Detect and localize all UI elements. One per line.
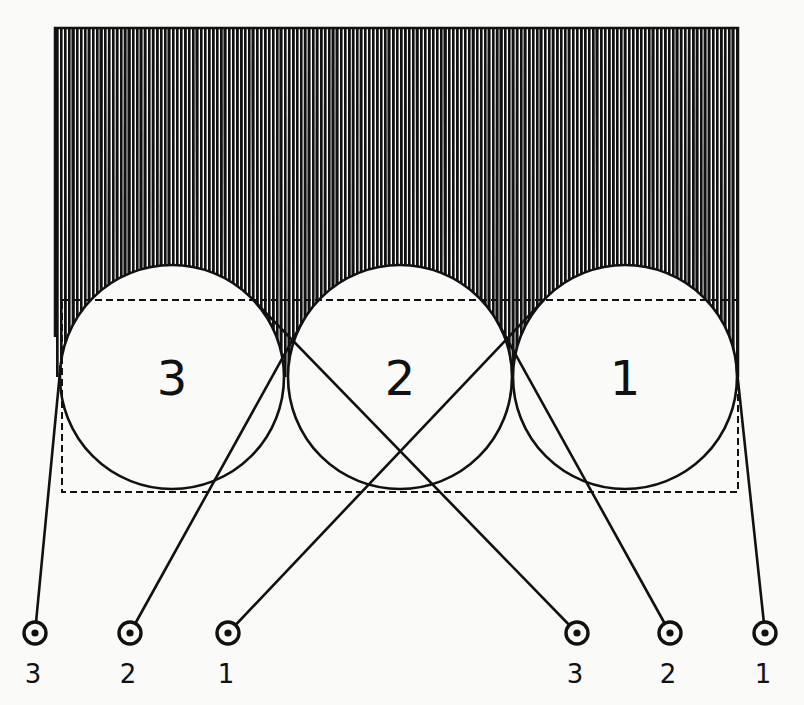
pulleys: 321321 <box>24 622 776 689</box>
pulley-label: 1 <box>755 659 772 689</box>
pulley-left-3: 3 <box>24 622 46 689</box>
pulley-label: 3 <box>25 659 42 689</box>
hatched-block <box>55 28 738 377</box>
pulley-label: 3 <box>567 659 584 689</box>
pulley-left-1: 1 <box>217 622 239 689</box>
roller-label: 2 <box>385 350 416 406</box>
pulley-label: 2 <box>660 659 677 689</box>
pulley-right-1: 1 <box>754 622 776 689</box>
roller-label: 1 <box>610 350 641 406</box>
pulley-right-3: 3 <box>566 622 588 689</box>
cord-3-left <box>35 366 61 633</box>
pulley-label: 1 <box>218 659 235 689</box>
cord-1-right <box>736 365 765 633</box>
roller-cord-diagram: 321 321321 <box>0 0 804 705</box>
pulley-right-2: 2 <box>659 622 681 689</box>
roller-label: 3 <box>157 350 188 406</box>
pulley-label: 2 <box>120 659 137 689</box>
pulley-left-2: 2 <box>119 622 141 689</box>
